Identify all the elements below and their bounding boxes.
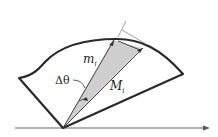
label-m-text: m [83, 52, 94, 66]
region-diagram [0, 0, 218, 137]
delta-theta-leader [73, 80, 85, 88]
label-m-i: mi [83, 53, 97, 68]
shaded-wedge [63, 40, 142, 128]
label-delta-theta: Δθ [55, 75, 70, 86]
label-M-sub: i [122, 87, 124, 95]
x-axis [15, 126, 210, 131]
axis-arrow-icon [203, 126, 210, 131]
label-M-i: Mi [110, 80, 125, 95]
delta-theta-text: Δθ [55, 74, 70, 87]
label-M-text: M [110, 79, 122, 93]
label-m-sub: i [94, 60, 96, 68]
